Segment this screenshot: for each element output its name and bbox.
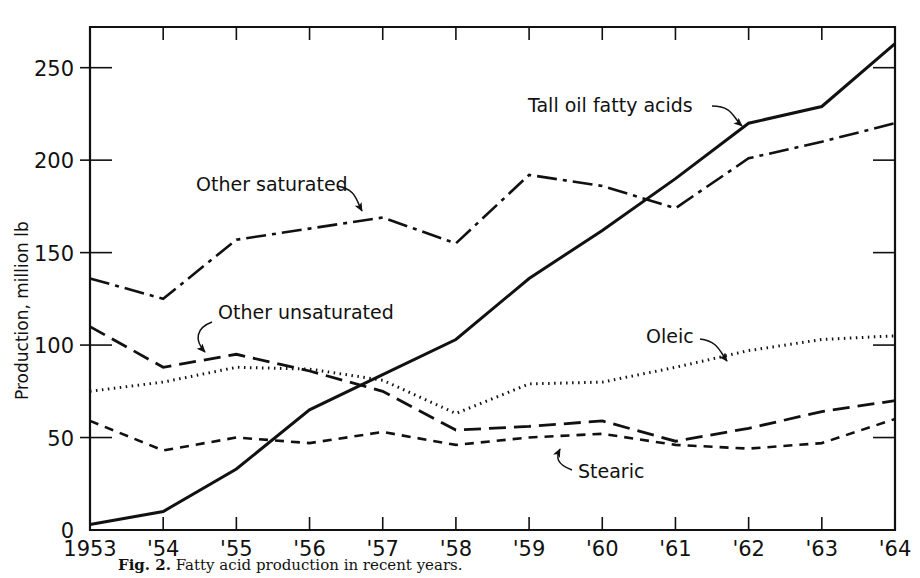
y-axis-tick-labels: 050100150200250 bbox=[34, 57, 74, 543]
annotation-label-tall-oil-fatty-acids: Tall oil fatty acids bbox=[527, 94, 693, 116]
y-tick-label-150: 150 bbox=[34, 242, 74, 266]
y-tick-label-50: 50 bbox=[47, 427, 74, 451]
annotation-label-other-saturated: Other saturated bbox=[196, 173, 348, 195]
bottom-axis-ticks bbox=[163, 517, 895, 530]
top-axis-ticks bbox=[163, 27, 895, 40]
annotation-leader-other-unsaturated bbox=[198, 322, 212, 352]
annotation-label-oleic: Oleic bbox=[646, 325, 694, 347]
x-tick-label-1953: 1953 bbox=[63, 537, 116, 561]
y-axis-title: Production, million lb bbox=[12, 221, 32, 400]
annotation-stearic: Stearic bbox=[558, 449, 645, 482]
y-tick-label-100: 100 bbox=[34, 334, 74, 358]
annotation-leader-tall-oil-fatty-acids bbox=[712, 106, 742, 126]
plot-frame bbox=[90, 27, 895, 530]
annotation-label-other-unsaturated: Other unsaturated bbox=[218, 301, 394, 323]
y-tick-label-250: 250 bbox=[34, 57, 74, 81]
left-axis-ticks bbox=[80, 68, 112, 438]
series-layer bbox=[90, 44, 895, 525]
figure-container: 050100150200250 1953'54'55'56'57'58'59'6… bbox=[0, 0, 920, 578]
figure-caption-text: Fatty acid production in recent years. bbox=[176, 556, 463, 574]
y-tick-label-200: 200 bbox=[34, 149, 74, 173]
annotation-other-unsaturated: Other unsaturated bbox=[198, 301, 394, 352]
annotation-label-stearic: Stearic bbox=[578, 460, 644, 482]
series-line-other-unsaturated bbox=[90, 327, 895, 442]
annotation-other-saturated: Other saturated bbox=[196, 173, 362, 211]
line-chart: 050100150200250 1953'54'55'56'57'58'59'6… bbox=[0, 0, 920, 578]
annotation-oleic: Oleic bbox=[646, 325, 727, 361]
annotation-leader-stearic bbox=[558, 449, 572, 470]
annotation-layer: Tall oil fatty acidsOther saturatedOther… bbox=[196, 94, 742, 482]
figure-caption: Fig. 2. Fatty acid production in recent … bbox=[118, 556, 898, 575]
series-line-oleic bbox=[90, 336, 895, 414]
annotation-tall-oil-fatty-acids: Tall oil fatty acids bbox=[527, 94, 742, 126]
figure-caption-label: Fig. 2. bbox=[118, 556, 171, 574]
series-line-tall-oil-fatty-acids bbox=[90, 44, 895, 525]
series-line-other-saturated bbox=[90, 123, 895, 299]
